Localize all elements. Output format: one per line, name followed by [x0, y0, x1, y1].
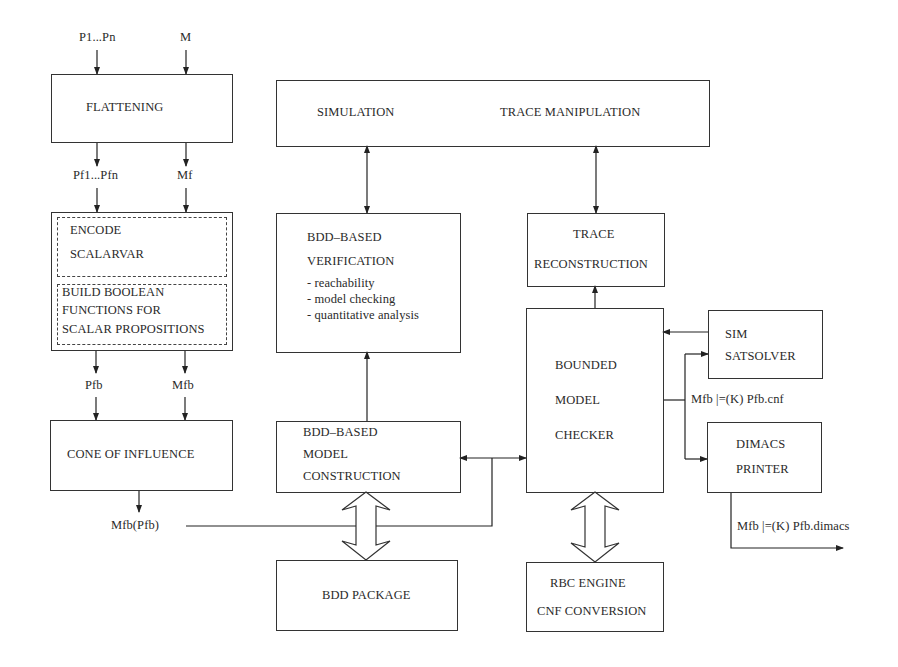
trace-reconstruction-box: TRACE RECONSTRUCTION: [527, 213, 665, 287]
reconstruction-label: RECONSTRUCTION: [534, 257, 648, 272]
cnf-output-label: Mfb |=(K) Pfb.cnf: [691, 392, 784, 407]
bdd-verification-box: BDD–BASED VERIFICATION - reachability - …: [276, 213, 461, 353]
cone-of-influence-box: CONE OF INFLUENCE: [50, 420, 233, 491]
printer-label: PRINTER: [736, 462, 789, 477]
bdd-verification-item-reachability: - reachability: [307, 276, 375, 291]
bmc-label-checker: CHECKER: [555, 428, 614, 443]
encode-label: ENCODE: [70, 223, 121, 238]
trace-manipulation-label: TRACE MANIPULATION: [500, 105, 640, 120]
cnf-conversion-label: CNF CONVERSION: [537, 604, 646, 619]
sim-label: SIM: [725, 327, 748, 342]
coi-output-label: Mfb(Pfb): [111, 518, 159, 533]
bdd-package-label: BDD PACKAGE: [322, 588, 411, 603]
flattening-label: FLATTENING: [86, 100, 163, 115]
input-model-label: M: [180, 30, 191, 45]
flattening-box: FLATTENING: [51, 74, 233, 143]
build-boolean-line3: SCALAR PROPOSITIONS: [62, 322, 205, 337]
simulation-box: SIMULATION TRACE MANIPULATION: [276, 80, 710, 147]
bdd-model-construction-line1: BDD–BASED: [303, 425, 378, 440]
hollow-double-arrow-rbc: [571, 492, 619, 562]
bmc-label-model: MODEL: [555, 393, 600, 408]
bdd-package-box: BDD PACKAGE: [276, 560, 458, 631]
build-boolean-line2: FUNCTIONS FOR: [62, 303, 161, 318]
dimacs-label: DIMACS: [736, 437, 785, 452]
encode-scalarvar-box: ENCODE SCALARVAR: [57, 217, 227, 277]
rbc-engine-label: RBC ENGINE: [550, 576, 626, 591]
flattened-props-label: Pf1...Pfn: [73, 168, 118, 183]
satsolver-label: SATSOLVER: [725, 349, 796, 364]
build-boolean-line1: BUILD BOOLEAN: [62, 285, 164, 300]
input-props-label: P1...Pn: [79, 30, 115, 45]
boolean-props-label: Pfb: [85, 378, 103, 393]
bmc-label-bounded: BOUNDED: [555, 358, 617, 373]
boolean-model-label: Mfb: [172, 378, 194, 393]
trace-label: TRACE: [573, 227, 614, 242]
scalarvar-label: SCALARVAR: [70, 247, 144, 262]
bdd-model-construction-line3: CONSTRUCTION: [303, 469, 401, 484]
bdd-verification-item-quantitative: - quantitative analysis: [307, 308, 419, 323]
bounded-model-checker-box: BOUNDED MODEL CHECKER: [526, 308, 664, 493]
bdd-model-construction-box: BDD–BASED MODEL CONSTRUCTION: [276, 421, 461, 493]
sat-solver-box: SIM SATSOLVER: [708, 310, 823, 379]
dimacs-printer-box: DIMACS PRINTER: [707, 422, 822, 493]
cone-of-influence-label: CONE OF INFLUENCE: [67, 447, 194, 462]
bdd-verification-item-model-checking: - model checking: [307, 292, 395, 307]
encoding-box: ENCODE SCALARVAR BUILD BOOLEAN FUNCTIONS…: [51, 212, 233, 351]
rbc-engine-box: RBC ENGINE CNF CONVERSION: [526, 562, 664, 632]
simulation-label: SIMULATION: [317, 105, 394, 120]
bdd-verification-title2: VERIFICATION: [307, 254, 394, 269]
bdd-model-construction-line2: MODEL: [303, 447, 348, 462]
dimacs-output-label: Mfb |=(K) Pfb.dimacs: [737, 519, 850, 534]
build-boolean-box: BUILD BOOLEAN FUNCTIONS FOR SCALAR PROPO…: [57, 284, 227, 345]
bdd-verification-title1: BDD–BASED: [307, 230, 382, 245]
flattened-model-label: Mf: [177, 168, 192, 183]
